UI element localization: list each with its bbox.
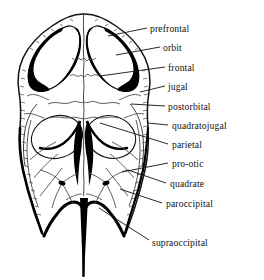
- midline-suture-group: [83, 14, 84, 196]
- label-pro-otic: pro-otic: [172, 159, 204, 169]
- label-parietal: parietal: [172, 140, 202, 150]
- label-orbit: orbit: [163, 43, 182, 53]
- skull-diagram-figure: prefrontal orbit frontal jugal postorbit…: [0, 0, 264, 280]
- midline-suture: [83, 14, 84, 196]
- label-postorbital: postorbital: [168, 102, 211, 112]
- label-supraoccipital: supraoccipital: [152, 238, 208, 248]
- label-quadratojugal: quadratojugal: [172, 121, 227, 131]
- leader-quadratojugal: [148, 123, 168, 125]
- label-prefrontal: prefrontal: [150, 24, 189, 34]
- skull-illustration: [0, 0, 264, 280]
- label-quadrate: quadrate: [170, 179, 204, 189]
- label-paroccipital: paroccipital: [166, 199, 213, 209]
- label-frontal: frontal: [168, 63, 195, 73]
- label-jugal: jugal: [168, 82, 188, 92]
